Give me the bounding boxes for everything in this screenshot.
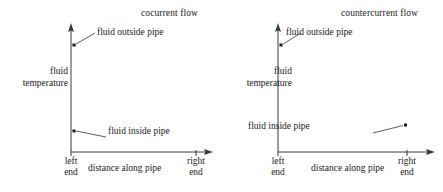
datapoint-outside-pipe xyxy=(280,44,283,47)
leader-line-inside-pipe xyxy=(76,131,106,137)
x-tick-label-right-end-countercurrent: right end xyxy=(390,156,424,177)
x-tick-label-left-line2: end xyxy=(261,167,295,178)
y-axis-label-countercurrent: fluid temperature xyxy=(238,66,292,89)
x-tick-label-left-end-countercurrent: left end xyxy=(261,156,295,177)
x-tick-label-left-line1: left xyxy=(65,156,78,166)
panel-title-cocurrent: cocurrent flow xyxy=(141,7,198,19)
heat-exchanger-temperature-figure: cocurrent flow fluid temperature distanc… xyxy=(0,0,443,192)
x-tick-label-right-end-cocurrent: right end xyxy=(179,156,213,177)
annotation-fluid-outside-pipe-countercurrent: fluid outside pipe xyxy=(286,27,353,38)
x-tick-label-right-line2: end xyxy=(390,167,424,178)
y-axis-label-line2: temperature xyxy=(23,78,68,88)
x-tick-label-left-line2: end xyxy=(54,167,88,178)
x-axis-label-cocurrent: distance along pipe xyxy=(88,163,161,174)
panel-cocurrent: cocurrent flow fluid temperature distanc… xyxy=(0,0,221,192)
x-axis-label-countercurrent: distance along pipe xyxy=(311,163,384,174)
annotation-fluid-inside-pipe-countercurrent: fluid inside pipe xyxy=(248,121,310,132)
datapoint-outside-pipe xyxy=(73,44,76,47)
panel-title-countercurrent: countercurrent flow xyxy=(341,7,418,19)
y-axis-label-cocurrent: fluid temperature xyxy=(14,66,68,89)
panel-countercurrent: countercurrent flow fluid temperature di… xyxy=(221,0,442,192)
y-axis-label-line2: temperature xyxy=(247,78,292,88)
annotation-fluid-inside-pipe-cocurrent: fluid inside pipe xyxy=(108,126,170,137)
x-tick-label-right-line1: right xyxy=(398,156,416,166)
datapoint-inside-pipe xyxy=(73,130,76,133)
x-tick-label-left-line1: left xyxy=(272,156,285,166)
x-tick-label-right-line2: end xyxy=(179,167,213,178)
annotation-fluid-outside-pipe-cocurrent: fluid outside pipe xyxy=(97,27,164,38)
x-tick-label-left-end-cocurrent: left end xyxy=(54,156,88,177)
y-axis-label-line1: fluid xyxy=(274,66,292,76)
leader-line-outside-pipe xyxy=(76,33,95,44)
leader-line-inside-pipe xyxy=(373,126,403,134)
x-tick-label-right-line1: right xyxy=(187,156,205,166)
datapoint-inside-pipe xyxy=(404,124,407,127)
y-axis-label-line1: fluid xyxy=(50,66,68,76)
